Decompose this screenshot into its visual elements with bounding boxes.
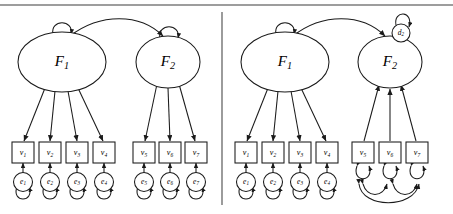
- loading-f1-v3: [68, 91, 77, 141]
- self-loop-v6: [383, 166, 397, 179]
- loading-f2-v5: [145, 84, 157, 141]
- loading-f2-v7: [179, 84, 195, 141]
- covariance-arc-v5-v6: [363, 184, 387, 195]
- panel-right: F1 F2 d2 v1 v2 v3 v4 v5 v6 v7 e1: [235, 14, 428, 203]
- panel-left: F1 F2 v1 v2 v3 v4 v5 v6 v7 e1: [12, 19, 207, 199]
- loading-f1-v1-right: [247, 88, 268, 141]
- loading-f1-v1: [24, 88, 45, 141]
- self-loop-v5: [356, 166, 370, 179]
- loading-f1-v3-right: [291, 91, 300, 141]
- loading-f1-v2-right: [273, 91, 278, 141]
- covariance-arc-f1-f2: [70, 19, 163, 36]
- loading-f1-v4-right: [301, 88, 326, 141]
- covariance-arc-v6-v7: [393, 184, 417, 195]
- loading-f2-v6: [168, 88, 170, 141]
- diagram-canvas: F1 F2 v1 v2 v3 v4 v5 v6 v7 e1: [0, 0, 453, 214]
- sem-path-diagram: F1 F2 v1 v2 v3 v4 v5 v6 v7 e1: [0, 0, 453, 214]
- structural-path-f1-f2: [293, 19, 385, 36]
- loading-f1-v2: [50, 91, 55, 141]
- self-loop-v7: [410, 166, 424, 179]
- formative-path-v7-f2: [401, 85, 416, 141]
- formative-path-v5-f2: [364, 85, 379, 141]
- loading-f1-v4: [78, 88, 103, 141]
